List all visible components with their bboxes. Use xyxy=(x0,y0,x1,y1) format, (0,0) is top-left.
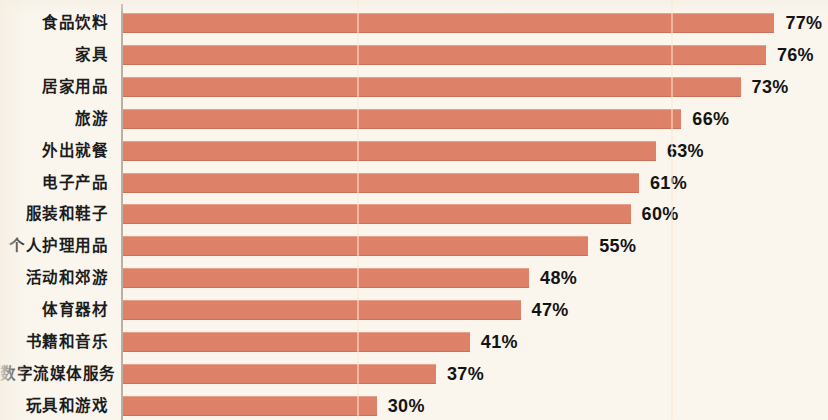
bar-row: 外出就餐63% xyxy=(0,135,828,167)
bar-value-label: 47% xyxy=(532,294,569,326)
category-label: 数字流媒体服务 xyxy=(0,358,108,390)
bar-row: 书籍和音乐41% xyxy=(0,326,828,358)
bar xyxy=(123,13,774,33)
category-label: 玩具和游戏 xyxy=(0,390,108,420)
bar xyxy=(123,236,588,256)
bar-row: 玩具和游戏30% xyxy=(0,390,828,420)
bar-row: 活动和郊游48% xyxy=(0,262,828,294)
bar xyxy=(123,364,436,384)
bar-value-label: 48% xyxy=(540,262,577,294)
bar-value-label: 73% xyxy=(752,71,789,103)
bar xyxy=(123,396,377,416)
category-label: 活动和郊游 xyxy=(0,262,108,294)
bar-row: 数字流媒体服务37% xyxy=(0,358,828,390)
bar xyxy=(123,141,656,161)
category-label: 体育器材 xyxy=(0,294,108,326)
category-label: 居家用品 xyxy=(0,71,108,103)
bar-value-label: 55% xyxy=(599,230,636,262)
bar-value-label: 77% xyxy=(785,7,822,39)
category-label: 个人护理用品 xyxy=(0,230,108,262)
bar-value-label: 66% xyxy=(692,103,729,135)
bar-value-label: 61% xyxy=(650,167,687,199)
bar-row: 体育器材47% xyxy=(0,294,828,326)
category-label: 书籍和音乐 xyxy=(0,326,108,358)
category-label: 家具 xyxy=(0,39,108,71)
bar-row: 电子产品61% xyxy=(0,167,828,199)
category-label: 食品饮料 xyxy=(0,7,108,39)
category-label: 外出就餐 xyxy=(0,135,108,167)
bar-value-label: 60% xyxy=(642,198,679,230)
bar-value-label: 30% xyxy=(388,390,425,420)
bar-value-label: 76% xyxy=(777,39,814,71)
bar xyxy=(123,109,681,129)
bar-row: 食品饮料77% xyxy=(0,7,828,39)
bar-value-label: 41% xyxy=(481,326,518,358)
category-label: 服装和鞋子 xyxy=(0,198,108,230)
bar xyxy=(123,332,470,352)
bar xyxy=(123,77,741,97)
bar xyxy=(123,268,529,288)
bar xyxy=(123,45,766,65)
bar-row: 家具76% xyxy=(0,39,828,71)
bar xyxy=(123,300,521,320)
bar-row: 个人护理用品55% xyxy=(0,230,828,262)
bar-row: 旅游66% xyxy=(0,103,828,135)
bar-value-label: 63% xyxy=(667,135,704,167)
bar-row: 服装和鞋子60% xyxy=(0,198,828,230)
bar-value-label: 37% xyxy=(447,358,484,390)
bar xyxy=(123,173,639,193)
bar-row: 居家用品73% xyxy=(0,71,828,103)
category-label: 旅游 xyxy=(0,103,108,135)
category-label: 电子产品 xyxy=(0,167,108,199)
bar-chart: 食品饮料77%家具76%居家用品73%旅游66%外出就餐63%电子产品61%服装… xyxy=(0,0,828,420)
bar xyxy=(123,204,631,224)
category-axis-line xyxy=(121,4,123,420)
